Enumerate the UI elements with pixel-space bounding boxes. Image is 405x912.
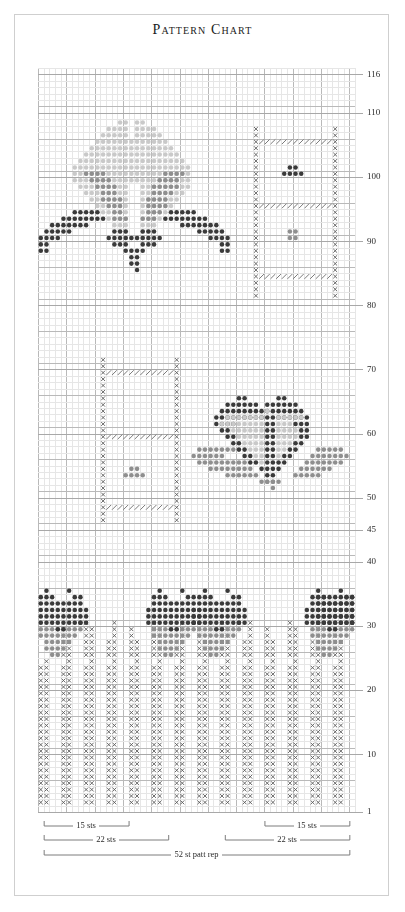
- pattern-chart-grid: [0, 0, 405, 912]
